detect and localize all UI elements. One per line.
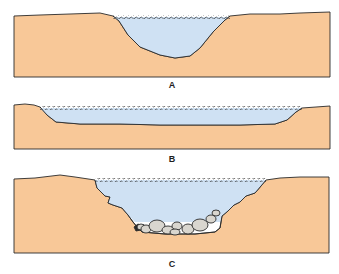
panel-c bbox=[14, 175, 329, 253]
panel-a-water-surface-waves bbox=[113, 15, 230, 19]
panel-b-water bbox=[40, 108, 302, 125]
panel-c-water-surface-waves bbox=[95, 178, 266, 182]
panel-b-water-surface-waves bbox=[40, 106, 302, 110]
panel-b-label: B bbox=[162, 154, 182, 164]
panel-c-label: C bbox=[162, 259, 182, 269]
panel-a-label: A bbox=[162, 80, 182, 90]
channel-cross-section-diagram bbox=[0, 0, 339, 274]
panel-b bbox=[14, 104, 330, 149]
panel-a bbox=[14, 12, 330, 77]
